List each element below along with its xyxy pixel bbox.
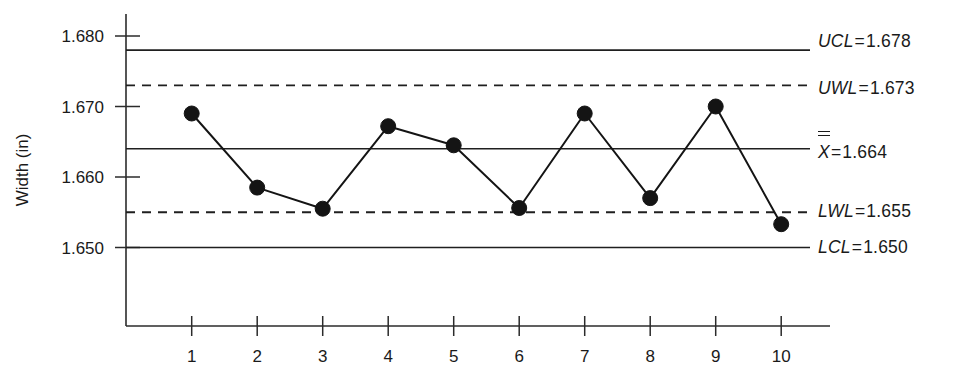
ucl-label-value: 1.678 xyxy=(866,31,911,51)
x-tick-label-6: 7 xyxy=(580,347,589,366)
xbar-symbol: X xyxy=(818,140,830,163)
y-tick-label-2: 1.660 xyxy=(61,168,104,187)
data-point-4 xyxy=(381,119,396,134)
y-tick-marks xyxy=(115,36,140,248)
uwl-label: UWL=1.673 xyxy=(818,78,915,99)
lwl-label: LWL=1.655 xyxy=(818,201,911,222)
x-tick-label-9: 10 xyxy=(772,347,791,366)
y-axis-title: Width (in) xyxy=(13,134,32,207)
ucl-label-name: UCL xyxy=(818,31,854,51)
x-tick-label-0: 1 xyxy=(187,347,196,366)
lcl-label-name: LCL xyxy=(818,237,851,257)
lwl-label-value: 1.655 xyxy=(866,201,911,221)
xbar-label-value: 1.664 xyxy=(842,142,887,162)
data-point-9 xyxy=(708,99,723,114)
ucl-label: UCL=1.678 xyxy=(818,31,911,52)
data-point-10 xyxy=(774,217,789,232)
lwl-label-name: LWL xyxy=(818,201,854,221)
x-tick-label-5: 6 xyxy=(514,347,523,366)
xbar-overbar-lower xyxy=(818,135,830,136)
xbar-label: X=1.664 xyxy=(818,140,887,163)
xbar-letter: X xyxy=(818,142,830,162)
xbar-label-equals: = xyxy=(830,142,842,162)
data-point-8 xyxy=(643,191,658,206)
x-tick-label-7: 8 xyxy=(645,347,654,366)
y-tick-labels: 1.680 1.670 1.660 1.650 xyxy=(61,27,104,258)
data-point-1 xyxy=(184,106,199,121)
lwl-label-equals: = xyxy=(854,201,866,221)
ucl-label-equals: = xyxy=(854,31,866,51)
control-limit-lines xyxy=(126,50,810,247)
x-tick-label-3: 4 xyxy=(383,347,392,366)
x-tick-label-1: 2 xyxy=(252,347,261,366)
data-point-7 xyxy=(577,106,592,121)
y-tick-label-3: 1.650 xyxy=(61,239,104,258)
chart-canvas: 1.680 1.670 1.660 1.650 Width (in) 1 2 3… xyxy=(0,0,966,376)
y-tick-label-1: 1.670 xyxy=(61,98,104,117)
x-tick-label-2: 3 xyxy=(318,347,327,366)
lcl-label: LCL=1.650 xyxy=(818,237,908,258)
data-point-2 xyxy=(250,180,265,195)
control-chart: 1.680 1.670 1.660 1.650 Width (in) 1 2 3… xyxy=(0,0,966,376)
series-polyline xyxy=(192,107,782,225)
data-point-5 xyxy=(446,138,461,153)
data-point-6 xyxy=(512,201,527,216)
data-point-3 xyxy=(315,201,330,216)
uwl-label-equals: = xyxy=(858,78,870,98)
y-tick-label-0: 1.680 xyxy=(61,27,104,46)
lcl-label-equals: = xyxy=(851,237,863,257)
x-tick-labels: 1 2 3 4 5 6 7 8 9 10 xyxy=(187,347,791,366)
xbar-overbar-upper xyxy=(818,131,830,132)
x-tick-label-4: 5 xyxy=(449,347,458,366)
lcl-label-value: 1.650 xyxy=(863,237,908,257)
x-tick-label-8: 9 xyxy=(711,347,720,366)
uwl-label-value: 1.673 xyxy=(870,78,915,98)
uwl-label-name: UWL xyxy=(818,78,858,98)
